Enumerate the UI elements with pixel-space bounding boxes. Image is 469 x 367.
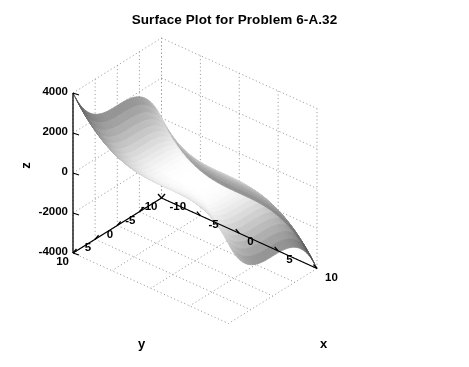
x-tick-label: 5	[286, 253, 292, 265]
figure-window: Surface Plot for Problem 6-A.32 z x y 40…	[0, 0, 469, 367]
y-tick-label: 5	[85, 241, 91, 253]
y-axis-label: y	[138, 336, 145, 351]
surface-plot-canvas	[0, 0, 469, 367]
y-tick-label: 10	[56, 255, 69, 267]
z-axis-label: z	[18, 162, 33, 169]
y-tick-label: 0	[107, 228, 113, 240]
x-tick-label: -10	[170, 200, 187, 212]
x-tick-label: 10	[325, 271, 338, 283]
z-tick-label: -2000	[39, 205, 68, 217]
x-tick-label: 0	[247, 235, 253, 247]
x-tick-label: -5	[208, 218, 218, 230]
z-tick-label: 2000	[42, 125, 68, 137]
z-tick-label: 0	[62, 165, 68, 177]
x-axis-label: x	[320, 336, 327, 351]
page-title: Surface Plot for Problem 6-A.32	[0, 12, 469, 27]
y-tick-label: -10	[141, 200, 158, 212]
z-tick-label: 4000	[42, 85, 68, 97]
y-tick-label: -5	[125, 214, 135, 226]
